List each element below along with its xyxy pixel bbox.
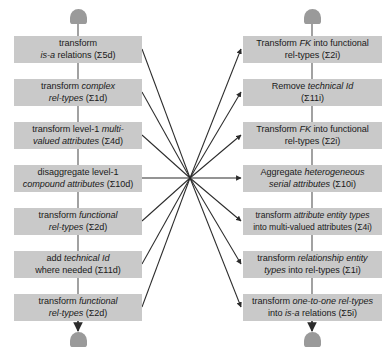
start-node-left [70,9,87,24]
box-line2-italic: is-a [41,50,55,60]
box-line2-plain: where needed (Σ11d) [35,265,120,275]
box-line2-italic: serial attributes [269,179,330,189]
process-box-d4[interactable]: transform level-1 multi-valued attribute… [14,122,142,149]
process-box-d5[interactable]: transformis-a relations (Σ5d) [14,36,142,63]
box-line1-italic: functional [79,210,117,220]
box-line1-italic: functional [79,296,117,306]
process-box-i1[interactable]: transform relationship entitytypes into … [243,251,382,278]
box-line1: Transform [256,38,299,48]
box-line2-italic: valued attributes [33,136,99,146]
process-box-i2a[interactable]: Transform FK into functionalrel-types (Σ… [243,36,382,63]
box-line2-plain: (Σ11i) [301,93,324,103]
box-line1: transform [257,253,297,263]
box-line2-italic: types [264,265,286,275]
process-box-d11[interactable]: add technical Idwhere needed (Σ11d) [14,251,142,278]
hub-incoming-edges [142,49,190,307]
box-line2-italic: compound attributes [23,179,104,189]
box-line1-italic: technical Id [308,81,353,91]
process-box-i11[interactable]: Remove technical Id(Σ11i) [243,79,382,106]
end-node-left [70,332,87,347]
box-line1: transform [41,81,81,91]
process-box-d2b[interactable]: transform functionalrel-types (Σ2d) [14,294,142,321]
box-line1: disaggregate level-1 [38,167,119,177]
box-line2-plain: into multi-valued attributes (Σ4i) [253,222,372,232]
box-line2-plain: rel-types (Σ2i) [285,50,340,60]
box-line1-italic: relationship entity [298,253,368,263]
box-line1: Remove [272,81,308,91]
start-node-right [304,9,321,24]
box-line1: transform [59,38,97,48]
box-line1-italic: FK [299,124,311,134]
process-box-d10[interactable]: disaggregate level-1compound attributes … [14,165,142,192]
box-line2-plain: (Σ10d) [104,179,133,189]
box-line1-italic: FK [299,38,311,48]
process-box-i10[interactable]: Aggregate heterogeneousserial attributes… [243,165,382,192]
box-line1: transform [252,296,292,306]
end-node-right [304,332,321,347]
box-line1: transform [39,296,79,306]
box-line2-italic: rel-types [49,93,83,103]
box-line1-italic: technical Id [64,253,109,263]
box-line2-plain: (Σ1d) [83,93,107,103]
box-line1: transform [39,210,79,220]
box-line1: Transform [256,124,299,134]
box-line2-plain: (Σ2d) [83,222,107,232]
box-line2-plain: (Σ2d) [83,308,107,318]
process-box-i4[interactable]: transform attribute entity typesinto mul… [243,208,382,235]
box-line2-plain: into [268,308,285,318]
box-line2-plain: rel-types (Σ2i) [285,136,340,146]
box-line1: transform level-1 [32,124,101,134]
process-box-i2b[interactable]: Transform FK into functionalrel-types (Σ… [243,122,382,149]
hub-outgoing-edges [190,49,241,307]
box-line1-plain2: into functional [311,124,369,134]
box-line1-italic: attribute entity types [294,210,370,220]
box-line2-plain: relations (Σ5d) [55,50,115,60]
box-line1-italic: multi- [102,124,124,134]
flowchart-diagram: transformis-a relations (Σ5d) transform … [0,0,388,361]
box-line2-plain2: relations (Σ5i) [300,308,357,318]
box-line1-italic: one-to-one rel-types [293,296,373,306]
process-box-d2a[interactable]: transform functionalrel-types (Σ2d) [14,208,142,235]
box-line2-italic: rel-types [49,222,83,232]
box-line1-plain2: into functional [311,38,369,48]
process-box-i5[interactable]: transform one-to-one rel-typesinto is-a … [243,294,382,321]
box-line1-italic: heterogeneous [304,167,364,177]
box-line2-italic: rel-types [49,308,83,318]
process-box-d1[interactable]: transform complexrel-types (Σ1d) [14,79,142,106]
box-line2-plain: (Σ10i) [330,179,356,189]
box-line1: transform [256,210,294,220]
box-line1-italic: complex [81,81,115,91]
box-line1: add [47,253,65,263]
box-line2-plain: into rel-types (Σ1i) [286,265,361,275]
box-line1: Aggregate [260,167,304,177]
box-line2-plain: (Σ4d) [99,136,123,146]
box-line2-italic: is-a [285,308,299,318]
